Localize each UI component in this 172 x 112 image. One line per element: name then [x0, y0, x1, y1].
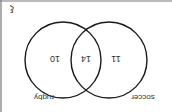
universal-set-symbol: ξ: [10, 4, 14, 14]
venn-svg: ξ rugby soccer 10 14 11: [0, 0, 172, 112]
soccer-label: soccer: [131, 93, 155, 102]
intersection-count: 14: [81, 54, 91, 64]
rugby-only-count: 10: [50, 54, 60, 64]
rugby-label: rugby: [34, 93, 54, 102]
venn-diagram: ξ rugby soccer 10 14 11: [0, 0, 172, 112]
soccer-only-count: 11: [111, 54, 120, 64]
